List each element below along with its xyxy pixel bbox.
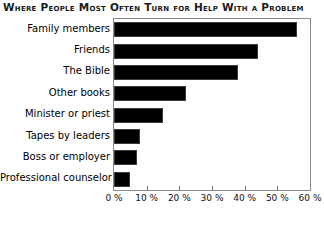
category-label: Other books <box>0 88 110 98</box>
x-tick-mark <box>277 186 278 190</box>
bar <box>114 108 163 123</box>
category-label: Family members <box>0 24 110 34</box>
x-tick-label: 50 % <box>266 193 289 204</box>
x-tick-mark <box>245 186 246 190</box>
bars-layer <box>114 19 310 190</box>
value-axis-labels: 0 %10 %20 %30 %40 %50 %60 % <box>0 193 324 211</box>
bar-chart-figure: Where People Most Often Turn for Help Wi… <box>0 0 324 225</box>
x-tick-mark <box>212 186 213 190</box>
category-label: Tapes by leaders <box>0 131 110 141</box>
category-label: The Bible <box>0 66 110 76</box>
x-tick-label: 60 % <box>299 193 322 204</box>
x-tick-label: 40 % <box>233 193 256 204</box>
bar <box>114 172 130 187</box>
bar <box>114 22 297 37</box>
category-label: Professional counselor <box>0 173 110 183</box>
x-tick-label: 30 % <box>201 193 224 204</box>
x-tick-mark <box>147 186 148 190</box>
plot-area <box>113 18 311 191</box>
bar <box>114 129 140 144</box>
x-tick-mark <box>179 186 180 190</box>
x-tick-label: 10 % <box>135 193 158 204</box>
chart-title: Where People Most Often Turn for Help Wi… <box>3 0 321 14</box>
bar <box>114 44 258 59</box>
category-label: Friends <box>0 45 110 55</box>
category-label: Minister or priest <box>0 109 110 119</box>
bar <box>114 86 186 101</box>
x-tick-label: 0 % <box>105 193 122 204</box>
bar <box>114 150 137 165</box>
bar <box>114 65 238 80</box>
category-axis: Family membersFriendsThe BibleOther book… <box>0 18 110 191</box>
category-label: Boss or employer <box>0 152 110 162</box>
x-tick-label: 20 % <box>168 193 191 204</box>
